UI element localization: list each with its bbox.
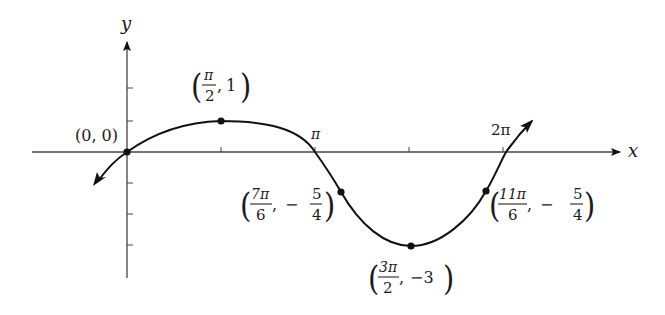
svg-text:6: 6 [256, 206, 266, 224]
svg-text:5: 5 [312, 185, 322, 203]
svg-text:): ) [324, 186, 335, 225]
svg-text:,: , [399, 268, 404, 287]
x-axis-label: x [628, 140, 638, 161]
svg-text:−3: −3 [410, 268, 434, 287]
label-max-point: ( π 2 , 1 ) [191, 67, 251, 106]
svg-text:2: 2 [205, 87, 215, 105]
svg-text:1: 1 [226, 76, 236, 95]
svg-text:4: 4 [312, 206, 322, 224]
svg-text:11π: 11π [499, 186, 527, 202]
point-pi-over-2 [217, 117, 224, 124]
data-points [123, 117, 489, 249]
two-pi-tick-label: 2π [491, 121, 511, 139]
svg-text:,: , [217, 76, 222, 95]
point-7pi-over-6 [337, 188, 344, 195]
origin-label: (0, 0) [75, 126, 118, 145]
svg-text:(: ( [368, 259, 379, 298]
x-ticks [221, 147, 503, 152]
svg-text:): ) [584, 186, 595, 225]
point-origin [123, 148, 130, 155]
label-11pi-over-6-point: ( 11π 6 , − 5 4 ) [489, 185, 595, 225]
pi-tick-label: π [310, 126, 321, 142]
svg-text:π: π [203, 67, 214, 83]
graph: y x π 2π (0, 0) ( π 2 , 1 ) ( 7π 6 , − 5… [0, 0, 665, 315]
svg-text:(: ( [191, 67, 202, 106]
svg-text:2: 2 [383, 279, 393, 297]
svg-text:5: 5 [573, 185, 583, 203]
svg-text:6: 6 [508, 206, 518, 224]
svg-text:−: − [540, 195, 553, 214]
y-axis-label: y [120, 13, 132, 34]
svg-text:4: 4 [573, 206, 583, 224]
svg-text:−: − [285, 195, 298, 214]
svg-text:,: , [527, 195, 532, 214]
svg-text:(: ( [240, 186, 251, 225]
svg-text:7π: 7π [251, 186, 270, 202]
svg-text:,: , [272, 195, 277, 214]
svg-text:): ) [443, 259, 454, 298]
point-3pi-over-2 [407, 242, 414, 249]
svg-text:): ) [240, 67, 251, 106]
label-min-point: ( 3π 2 , −3 ) [368, 259, 454, 298]
label-7pi-over-6-point: ( 7π 6 , − 5 4 ) [240, 185, 335, 225]
y-ticks [127, 88, 133, 245]
svg-text:3π: 3π [379, 259, 398, 275]
